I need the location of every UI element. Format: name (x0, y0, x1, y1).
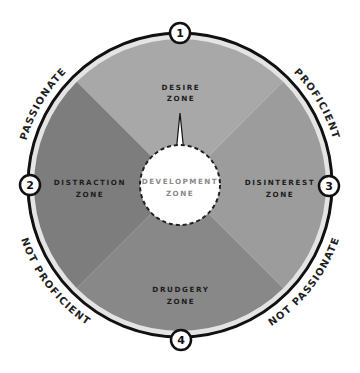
desire-zone-label-1: DESIRE (162, 83, 201, 92)
development-zone-label-2: ZONE (166, 189, 194, 198)
drudgery-zone-label-1: DRUDGERY (152, 285, 209, 294)
marker-2[interactable]: 2 (20, 175, 40, 195)
development-zone-label-1: DEVELOPMENT (142, 177, 219, 186)
distraction-zone-label-2: ZONE (76, 190, 105, 199)
disinterest-zone-label-2: ZONE (266, 190, 295, 199)
drudgery-zone-label-2: ZONE (167, 297, 196, 306)
marker-4-number: 4 (177, 334, 185, 347)
marker-3[interactable]: 3 (319, 176, 339, 196)
zones-diagram: DEVELOPMENT ZONE DESIRE ZONE DISTRACTION… (0, 0, 360, 373)
marker-1-number: 1 (176, 27, 184, 40)
desire-zone-label-2: ZONE (167, 94, 196, 103)
marker-1[interactable]: 1 (170, 23, 190, 43)
marker-3-number: 3 (325, 180, 333, 193)
marker-4[interactable]: 4 (171, 330, 191, 350)
disinterest-zone-label-1: DISINTEREST (245, 178, 315, 187)
distraction-zone-label-1: DISTRACTION (54, 178, 126, 187)
marker-2-number: 2 (26, 179, 34, 192)
